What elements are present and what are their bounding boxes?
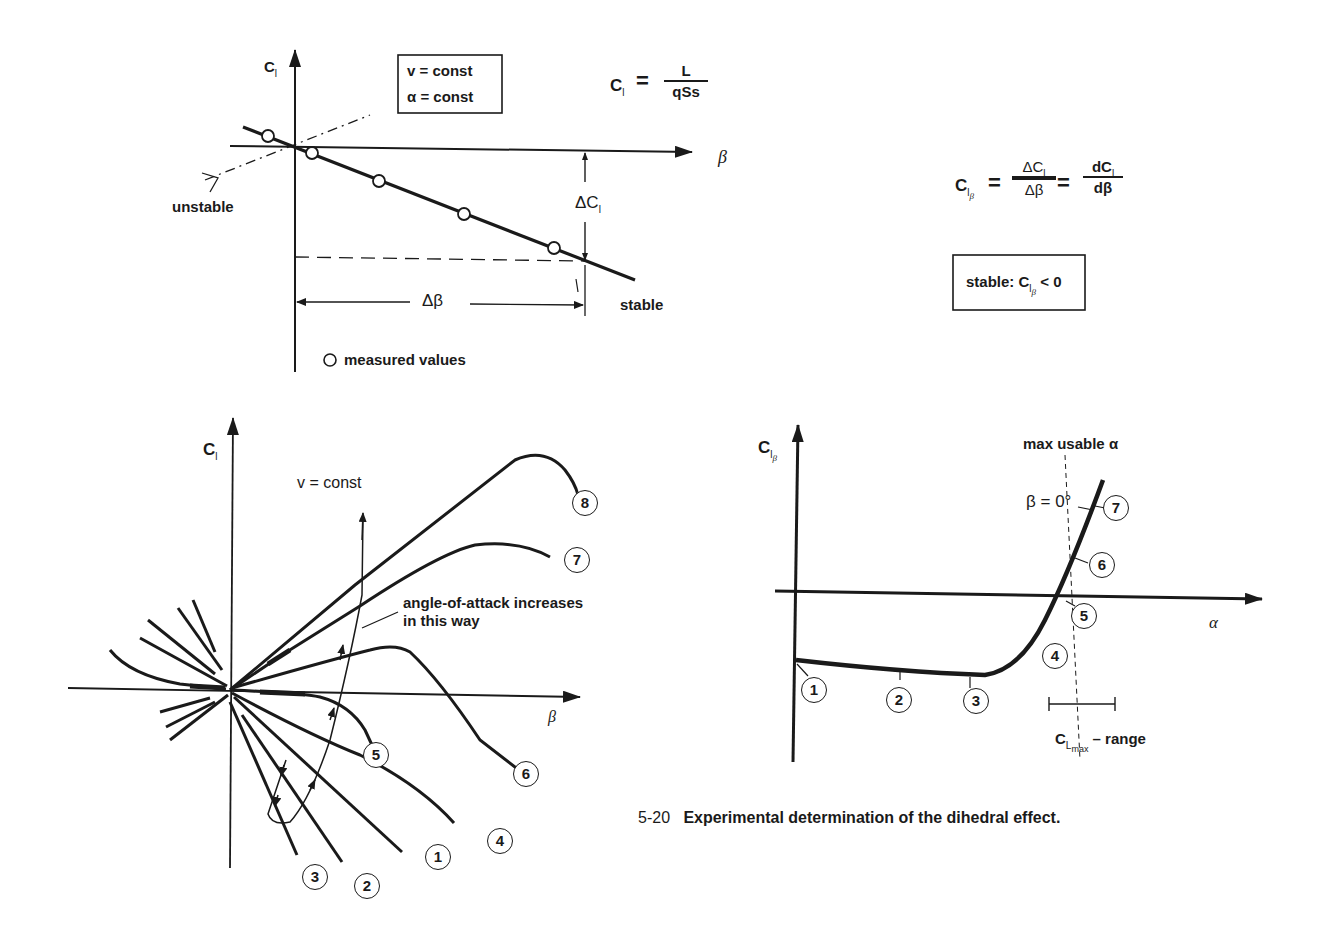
point-label-4: 4	[1042, 643, 1068, 669]
point-label-5: 5	[1071, 603, 1097, 629]
delta-cl-label: ΔCl	[575, 193, 601, 213]
clmax-range-label: CLmax – range	[1055, 730, 1146, 747]
point-label-2: 2	[886, 687, 912, 713]
bottom-right-chart	[775, 425, 1262, 762]
stability-criterion: stable: Clβ < 0	[966, 273, 1062, 290]
fraction-delta: ΔCl Δβ	[1012, 158, 1056, 198]
figure-caption-text: Experimental determination of the dihedr…	[683, 809, 1060, 826]
figure-number: 5-20	[638, 809, 670, 826]
curve-label-4: 4	[487, 828, 513, 854]
aoa-annotation-line1: angle-of-attack increases	[403, 594, 583, 611]
condition-alpha: α = const	[407, 88, 473, 105]
point-label-3: 3	[963, 688, 989, 714]
aoa-annotation-line2: in this way	[403, 612, 480, 629]
br-y-axis-label: Clβ	[758, 438, 777, 458]
curve-label-3: 3	[302, 864, 328, 890]
curve-label-8: 8	[572, 490, 598, 516]
cl-formula-lhs: Cl	[610, 76, 625, 96]
condition-v: v = const	[407, 62, 472, 79]
curve-label-2: 2	[354, 873, 380, 899]
bl-x-axis-label: β	[548, 708, 556, 726]
legend-measured-values: measured values	[344, 351, 466, 368]
curve-label-5: 5	[363, 742, 389, 768]
beta-zero-label: β = 0°	[1026, 492, 1071, 512]
point-label-7: 7	[1103, 495, 1129, 521]
curve-label-6: 6	[513, 761, 539, 787]
figure-caption: 5-20 Experimental determination of the d…	[638, 809, 1060, 827]
point-label-6: 6	[1089, 552, 1115, 578]
curve-label-7: 7	[564, 547, 590, 573]
clbeta-eq1: =	[988, 170, 1001, 196]
fraction-derivative: dCl dβ	[1083, 158, 1123, 196]
max-usable-alpha-label: max usable α	[1023, 435, 1118, 452]
delta-beta-label: Δβ	[422, 291, 443, 311]
unstable-label: unstable	[172, 198, 234, 215]
clbeta-eq2: =	[1057, 170, 1070, 196]
curve-label-1: 1	[425, 844, 451, 870]
point-label-1: 1	[801, 677, 827, 703]
cl-formula-eq: =	[636, 68, 649, 94]
clbeta-lhs: Clβ	[955, 176, 974, 196]
top-x-axis-label: β	[718, 147, 727, 168]
bl-condition: v = const	[297, 474, 361, 492]
bl-y-axis-label: Cl	[203, 440, 218, 460]
stable-label: stable	[620, 296, 663, 313]
br-x-axis-label: α	[1209, 613, 1218, 633]
diagram-lineart	[0, 0, 1321, 928]
cl-formula-fraction: L qSs	[664, 62, 708, 100]
top-y-axis-label: Cl	[264, 58, 277, 75]
